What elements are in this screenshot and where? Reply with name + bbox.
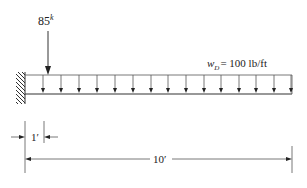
dimension-10ft-label: 10′ (153, 153, 166, 165)
load-arrow-icon (149, 75, 153, 93)
distributed-load-label: wD= 100 lb/ft (207, 57, 267, 72)
load-arrow-icon (202, 75, 206, 93)
dim-arrow-left-icon (44, 135, 50, 139)
load-arrow-icon (184, 75, 188, 93)
beam (25, 75, 292, 94)
dim-arrow-left-icon (25, 157, 31, 161)
dim-arrow-right-icon (19, 135, 25, 139)
load-arrow-icon (166, 75, 170, 93)
load-arrow-icon (237, 75, 241, 93)
load-arrow-icon (59, 75, 63, 93)
load-arrow-icon (77, 75, 81, 93)
load-arrow-icon (95, 75, 99, 93)
dimension-10ft: 10′ (25, 146, 292, 173)
load-arrow-icon (254, 75, 258, 93)
dimension-1ft-label: 1′ (31, 131, 39, 143)
load-arrow-icon (131, 75, 135, 93)
load-arrow-icon (272, 75, 276, 93)
point-load-arrow-icon (45, 66, 51, 75)
point-load: 85k (38, 13, 54, 75)
load-arrow-icon (113, 75, 117, 93)
distributed-load-arrows (41, 75, 293, 93)
dimension-1ft: 1′ (11, 121, 58, 173)
dim-arrow-right-icon (286, 157, 292, 161)
load-arrow-icon (41, 75, 45, 93)
point-load-label: 85k (38, 13, 54, 28)
fixed-support-wall (16, 66, 26, 112)
load-arrow-icon (219, 75, 223, 93)
beam-diagram: 85k wD= 100 lb/ft 1′ 10′ (0, 0, 307, 188)
